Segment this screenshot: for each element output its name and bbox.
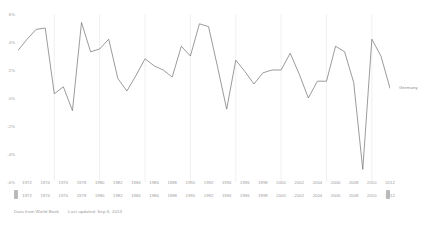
x-tick-label-bottom[interactable]: 1994 bbox=[222, 193, 232, 199]
x-tick-label-top: 1974 bbox=[40, 180, 50, 186]
x-tick-label-top: 1998 bbox=[258, 180, 268, 186]
x-tick-label-top: 1980 bbox=[95, 180, 105, 186]
x-tick-label-top: 2000 bbox=[276, 180, 286, 186]
x-axis: 1972197419761978198019821984198619881990… bbox=[18, 180, 390, 206]
x-tick-label-bottom[interactable]: 1982 bbox=[113, 193, 123, 199]
x-tick-label-bottom[interactable]: 1972 bbox=[22, 193, 32, 199]
x-tick-label-bottom[interactable]: 1984 bbox=[131, 193, 141, 199]
x-tick-label-bottom[interactable]: 1998 bbox=[258, 193, 268, 199]
x-tick-label-bottom[interactable]: 1974 bbox=[40, 193, 50, 199]
x-tick-label-top: 2008 bbox=[349, 180, 359, 186]
y-tick-label: -2% bbox=[7, 124, 15, 129]
chart-footer: Data from World Bank Last updated: Sep 6… bbox=[14, 208, 122, 215]
x-tick-label-top: 2006 bbox=[331, 180, 341, 186]
x-tick-label-bottom[interactable]: 1990 bbox=[186, 193, 196, 199]
x-tick-label-top: 1996 bbox=[240, 180, 250, 186]
y-tick-label: -4% bbox=[7, 152, 15, 157]
x-tick-label-top: 2004 bbox=[313, 180, 323, 186]
x-tick-label-top: 2012 bbox=[385, 180, 395, 186]
x-tick-label-bottom[interactable]: 1978 bbox=[77, 193, 87, 199]
range-handle-left[interactable] bbox=[14, 190, 18, 199]
y-tick-label: -6% bbox=[7, 180, 15, 185]
x-tick-label-bottom[interactable]: 2002 bbox=[295, 193, 305, 199]
x-tick-label-bottom[interactable]: 1976 bbox=[59, 193, 69, 199]
x-tick-label-bottom[interactable]: 2000 bbox=[276, 193, 286, 199]
x-tick-label-top: 1992 bbox=[204, 180, 214, 186]
y-tick-label: 0% bbox=[9, 96, 15, 101]
x-tick-label-top: 1990 bbox=[186, 180, 196, 186]
x-tick-label-bottom[interactable]: 1986 bbox=[149, 193, 159, 199]
y-tick-label: 2% bbox=[9, 68, 15, 73]
y-tick-label: 4% bbox=[9, 40, 15, 45]
x-tick-label-top: 1978 bbox=[77, 180, 87, 186]
x-tick-label-bottom[interactable]: 2006 bbox=[331, 193, 341, 199]
line-chart-svg bbox=[18, 14, 390, 182]
x-tick-label-top: 1994 bbox=[222, 180, 232, 186]
x-tick-label-bottom[interactable]: 1980 bbox=[95, 193, 105, 199]
x-tick-label-top: 1972 bbox=[22, 180, 32, 186]
last-updated-text: Last updated: Sep 6, 2013 bbox=[68, 208, 122, 215]
x-tick-label-bottom[interactable]: 2010 bbox=[367, 193, 377, 199]
x-tick-label-top: 1986 bbox=[149, 180, 159, 186]
data-source-text: Data from World Bank bbox=[14, 208, 59, 215]
x-tick-label-top: 1988 bbox=[167, 180, 177, 186]
x-tick-label-top: 1984 bbox=[131, 180, 141, 186]
series-line-germany[interactable] bbox=[18, 22, 390, 169]
x-tick-label-top: 2010 bbox=[367, 180, 377, 186]
x-tick-label-top: 1982 bbox=[113, 180, 123, 186]
series-label-germany: Germany bbox=[399, 85, 418, 91]
y-axis: 6%4%2%0%-2%-4%-6% bbox=[0, 0, 18, 182]
y-tick-label: 6% bbox=[9, 12, 15, 17]
x-tick-label-bottom[interactable]: 1992 bbox=[204, 193, 214, 199]
chart-plot-area bbox=[18, 14, 390, 182]
x-axis-row-bottom: 1972197419761978198019821984198619881990… bbox=[18, 193, 390, 202]
x-tick-label-bottom[interactable]: 1996 bbox=[240, 193, 250, 199]
range-handle-right[interactable] bbox=[386, 190, 390, 199]
x-axis-row-top: 1972197419761978198019821984198619881990… bbox=[18, 180, 390, 189]
x-tick-label-bottom[interactable]: 2004 bbox=[313, 193, 323, 199]
chart-page: 6%4%2%0%-2%-4%-6% 1972197419761978198019… bbox=[0, 0, 426, 225]
x-tick-label-bottom[interactable]: 1988 bbox=[167, 193, 177, 199]
x-tick-label-top: 2002 bbox=[295, 180, 305, 186]
x-tick-label-bottom[interactable]: 2008 bbox=[349, 193, 359, 199]
x-tick-label-top: 1976 bbox=[59, 180, 69, 186]
